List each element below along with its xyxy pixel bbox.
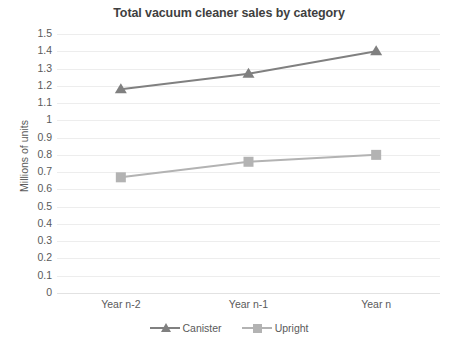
legend-label: Upright [275, 322, 309, 334]
y-tick-label: 1.5 [22, 28, 52, 39]
y-tick-label: 0.5 [22, 201, 52, 212]
x-tick-label: Year n [321, 298, 431, 310]
chart-title: Total vacuum cleaner sales by category [0, 6, 458, 20]
y-tick-label: 0.8 [22, 149, 52, 160]
data-point-canister-2 [370, 45, 382, 55]
y-tick-label: 0.1 [22, 270, 52, 281]
line-chart: Total vacuum cleaner sales by category M… [0, 0, 458, 356]
y-tick-label: 1.3 [22, 63, 52, 74]
data-point-upright-2 [371, 150, 381, 160]
y-tick-label: 0.6 [22, 183, 52, 194]
x-tick-label: Year n-1 [194, 298, 304, 310]
chart-legend: CanisterUpright [0, 322, 458, 334]
legend-key [242, 322, 272, 334]
triangle-marker-icon [161, 323, 171, 332]
gridline [57, 293, 440, 294]
y-tick-label: 0.2 [22, 252, 52, 263]
y-tick-label: 1.2 [22, 80, 52, 91]
legend-key [150, 322, 180, 334]
data-point-upright-1 [244, 157, 254, 167]
square-marker-icon [253, 324, 262, 333]
y-tick-label: 0.4 [22, 218, 52, 229]
legend-label: Canister [183, 322, 222, 334]
series-layer [57, 34, 440, 293]
y-tick-label: 0.7 [22, 166, 52, 177]
y-tick-label: 0.3 [22, 235, 52, 246]
x-tick-label: Year n-2 [66, 298, 176, 310]
data-point-upright-0 [116, 172, 126, 182]
y-tick-label: 1.4 [22, 45, 52, 56]
legend-item-upright[interactable]: Upright [242, 322, 309, 334]
y-tick-label: 0.9 [22, 132, 52, 143]
y-tick-label: 0 [22, 287, 52, 298]
y-tick-label: 1 [22, 114, 52, 125]
legend-item-canister[interactable]: Canister [150, 322, 222, 334]
y-tick-label: 1.1 [22, 97, 52, 108]
plot-area [57, 34, 440, 293]
